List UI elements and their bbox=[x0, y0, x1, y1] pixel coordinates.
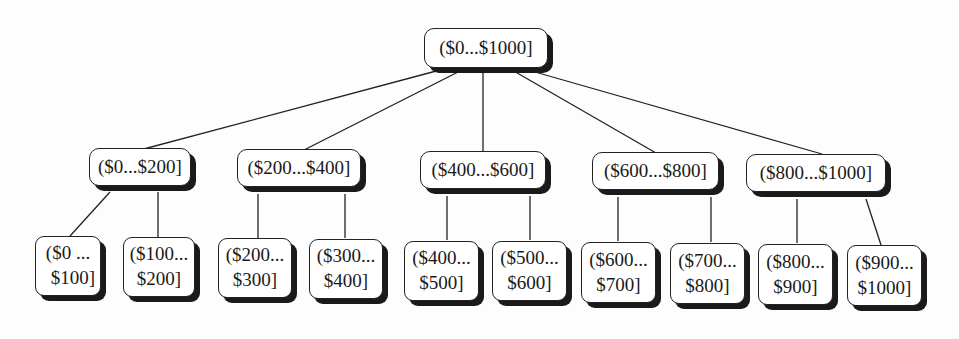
leaf-line2: $200] bbox=[137, 267, 181, 292]
leaf-node-500-600: ($500... $600] bbox=[492, 241, 567, 301]
node-label: ($600...$800] bbox=[604, 159, 707, 183]
level1-node-600-800: ($600...$800] bbox=[592, 152, 719, 190]
leaf-line1: ($200... bbox=[226, 243, 285, 268]
leaf-line2: $500] bbox=[419, 271, 463, 296]
level1-node-400-600: ($400...$600] bbox=[420, 151, 546, 189]
leaf-line2: $100] bbox=[41, 266, 95, 291]
leaf-node-600-700: ($600... $700] bbox=[581, 242, 656, 303]
leaf-node-400-500: ($400... $500] bbox=[404, 241, 479, 301]
leaf-line2: $300] bbox=[233, 268, 277, 293]
leaf-node-900-1000: ($900... $1000] bbox=[847, 245, 922, 306]
node-label: ($200...$400] bbox=[248, 156, 351, 180]
leaf-node-0-100: ($0 ... $100] bbox=[35, 236, 101, 296]
level1-node-800-1000: ($800...$1000] bbox=[746, 154, 886, 192]
leaf-line1: ($300... bbox=[317, 244, 376, 269]
leaf-line1: ($900... bbox=[855, 251, 914, 276]
leaf-node-700-800: ($700... $800] bbox=[670, 243, 745, 304]
leaf-line2: $800] bbox=[685, 274, 729, 299]
leaf-line1: ($0 ... bbox=[46, 241, 90, 266]
leaf-line2: $900] bbox=[773, 275, 817, 300]
leaf-node-100-200: ($100... $200] bbox=[123, 237, 195, 297]
level1-node-0-200: ($0...$200] bbox=[89, 148, 191, 186]
level1-node-200-400: ($200...$400] bbox=[237, 149, 361, 187]
leaf-line1: ($600... bbox=[589, 248, 648, 273]
node-label: ($0...$200] bbox=[98, 155, 182, 179]
node-label: ($400...$600] bbox=[432, 158, 535, 182]
leaf-node-300-400: ($300... $400] bbox=[309, 239, 383, 299]
leaf-node-800-900: ($800... $900] bbox=[758, 244, 833, 305]
leaf-line1: ($100... bbox=[130, 242, 189, 267]
node-label: ($800...$1000] bbox=[760, 161, 872, 185]
leaf-line1: ($500... bbox=[500, 246, 559, 271]
leaf-node-200-300: ($200... $300] bbox=[218, 238, 292, 298]
leaf-line2: $700] bbox=[596, 273, 640, 298]
leaf-line1: ($400... bbox=[412, 246, 471, 271]
root-node-label: ($0...$1000] bbox=[439, 36, 532, 60]
leaf-line2: $1000] bbox=[858, 276, 912, 301]
leaf-line1: ($700... bbox=[678, 249, 737, 274]
leaf-line2: $400] bbox=[324, 269, 368, 294]
leaf-line1: ($800... bbox=[766, 250, 825, 275]
root-node: ($0...$1000] bbox=[424, 28, 548, 68]
leaf-line2: $600] bbox=[507, 271, 551, 296]
